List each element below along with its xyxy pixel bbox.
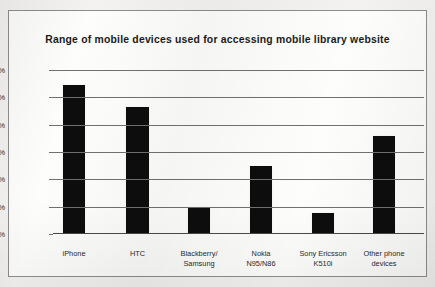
x-axis-label: Other phonedevices (344, 249, 424, 269)
y-axis-label: 25% (0, 93, 5, 102)
scanned-page: Range of mobile devices used for accessi… (0, 0, 435, 287)
bar (250, 166, 272, 233)
y-tickmark (49, 97, 53, 98)
bar (126, 107, 149, 233)
y-axis-label: 5% (0, 202, 5, 211)
gridline-15% (53, 152, 424, 153)
bar (373, 136, 395, 233)
y-tickmark (49, 125, 53, 126)
y-tickmark (49, 152, 53, 153)
y-tickmark (49, 234, 53, 235)
y-tickmark (49, 207, 53, 208)
y-axis-label: 20% (0, 120, 5, 129)
y-axis-label: 30% (0, 66, 5, 75)
bar (63, 85, 85, 233)
plot-area: 0%5%10%15%20%25%30% (53, 70, 424, 234)
bar (188, 207, 210, 233)
gridline-25% (53, 97, 424, 98)
gridline-30% (53, 70, 424, 71)
gridline-10% (53, 179, 424, 180)
gridline-20% (53, 125, 424, 126)
chart-title: Range of mobile devices used for accessi… (9, 34, 426, 45)
y-tickmark (49, 70, 53, 71)
y-axis-label: 10% (0, 175, 5, 184)
chart-figure: Range of mobile devices used for accessi… (8, 10, 427, 277)
gridline-5% (53, 207, 424, 208)
y-axis-label: 15% (0, 148, 5, 157)
y-axis-label: 0% (0, 230, 5, 239)
y-tickmark (49, 179, 53, 180)
bar (312, 213, 334, 233)
